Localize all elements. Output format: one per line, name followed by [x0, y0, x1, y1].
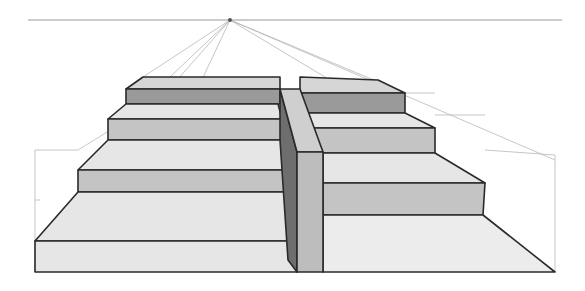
right-step-tread	[323, 153, 485, 183]
wall-front	[297, 152, 323, 272]
left-step-riser	[126, 89, 280, 104]
left-step-tread	[78, 140, 286, 170]
left-step-riser	[35, 241, 297, 272]
left-step-riser	[78, 170, 288, 192]
left-step-tread	[35, 192, 297, 241]
perspective-guide-line	[170, 20, 230, 77]
perspective-guide-line	[485, 150, 555, 155]
vanishing-point-icon	[228, 18, 232, 22]
drawing-canvas	[0, 0, 585, 291]
perspective-steps-drawing	[0, 0, 585, 291]
right-step-riser	[323, 183, 485, 215]
left-step-tread	[108, 104, 282, 119]
perspective-guide-line	[230, 20, 330, 80]
right-step-tread	[300, 77, 405, 93]
right-floor	[323, 215, 555, 272]
left-step-riser	[108, 119, 282, 140]
left-staircase	[35, 77, 297, 272]
left-step-tread	[126, 77, 280, 89]
